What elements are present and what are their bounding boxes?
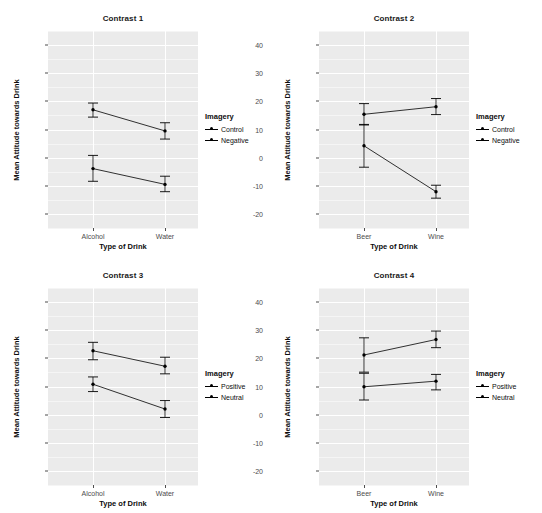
series-neutral xyxy=(88,377,170,418)
facet-title: Contrast 3 xyxy=(48,271,198,280)
data-point xyxy=(163,365,166,368)
data-point xyxy=(362,113,365,116)
legend-label: Positive xyxy=(492,383,517,390)
data-point xyxy=(434,190,437,193)
legend-item-positive[interactable]: Positive xyxy=(205,381,246,392)
plot-area xyxy=(319,288,469,485)
y-tick-mark xyxy=(45,330,48,331)
y-tick-mark xyxy=(45,185,48,186)
data-point xyxy=(91,108,94,111)
y-tick-label: 0 xyxy=(259,154,263,161)
y-tick-label: -20 xyxy=(253,467,263,474)
legend: ImageryPositiveNeutral xyxy=(205,369,246,403)
y-tick-label: 0 xyxy=(259,411,263,418)
series-line xyxy=(93,384,165,409)
data-point xyxy=(91,349,94,352)
x-tick-mark xyxy=(93,228,94,231)
data-point xyxy=(362,385,365,388)
legend-item-negative[interactable]: Negative xyxy=(205,135,249,146)
x-tick-mark xyxy=(436,485,437,488)
data-point xyxy=(362,353,365,356)
y-tick-mark xyxy=(316,442,319,443)
series-layer xyxy=(48,31,198,228)
x-tick-label: Wine xyxy=(428,490,444,497)
series-line xyxy=(93,169,165,185)
y-tick-mark xyxy=(316,157,319,158)
legend: ImageryPositiveNeutral xyxy=(476,369,517,403)
y-tick-mark xyxy=(316,129,319,130)
legend-item-neutral[interactable]: Neutral xyxy=(205,392,246,403)
y-tick-mark xyxy=(45,45,48,46)
legend-label: Negative xyxy=(221,137,249,144)
y-axis-title: Mean Attitude towards Drink xyxy=(283,336,292,437)
legend-title: Imagery xyxy=(476,369,517,378)
data-point xyxy=(91,383,94,386)
data-point xyxy=(434,379,437,382)
x-tick-label: Alcohol xyxy=(82,490,105,497)
x-tick-label: Wine xyxy=(428,233,444,240)
legend-key-icon xyxy=(205,381,218,392)
y-tick-mark xyxy=(45,358,48,359)
y-tick-mark xyxy=(316,73,319,74)
legend-title: Imagery xyxy=(476,112,520,121)
facet-panel-3: Contrast 3403020100-10-20AlcoholWaterTyp… xyxy=(0,257,271,513)
legend-item-control[interactable]: Control xyxy=(205,124,249,135)
y-tick-label: -10 xyxy=(253,439,263,446)
y-tick-mark xyxy=(316,185,319,186)
gridline-minor xyxy=(319,485,469,486)
y-tick-label: 40 xyxy=(255,299,263,306)
legend-item-negative[interactable]: Negative xyxy=(476,135,520,146)
legend-key-icon xyxy=(205,124,218,135)
legend-title: Imagery xyxy=(205,112,249,121)
x-tick-mark xyxy=(165,485,166,488)
legend: ImageryControlNegative xyxy=(476,112,520,146)
series-neutral xyxy=(359,373,441,400)
legend-item-positive[interactable]: Positive xyxy=(476,381,517,392)
facet-panel-2: Contrast 2403020100-10-20BeerWineType of… xyxy=(271,0,542,257)
series-positive xyxy=(88,342,170,374)
x-tick-mark xyxy=(364,485,365,488)
legend-key-dot xyxy=(481,395,484,398)
y-axis-title: Mean Attitude towards Drink xyxy=(12,336,21,437)
plot-area xyxy=(319,31,469,228)
legend-label: Neutral xyxy=(221,394,244,401)
gridline-minor xyxy=(319,228,469,229)
y-tick-label: 10 xyxy=(255,126,263,133)
y-tick-label: 20 xyxy=(255,355,263,362)
series-negative xyxy=(359,124,441,198)
y-tick-mark xyxy=(45,157,48,158)
y-tick-label: 10 xyxy=(255,383,263,390)
x-tick-mark xyxy=(165,228,166,231)
series-control xyxy=(88,103,170,139)
series-line xyxy=(364,146,436,192)
x-tick-label: Alcohol xyxy=(82,233,105,240)
legend-key-icon xyxy=(205,135,218,146)
y-tick-mark xyxy=(45,213,48,214)
series-layer xyxy=(319,288,469,485)
x-axis-title: Type of Drink xyxy=(319,499,469,508)
y-tick-mark xyxy=(316,213,319,214)
y-tick-mark xyxy=(45,442,48,443)
y-tick-mark xyxy=(316,101,319,102)
x-tick-label: Beer xyxy=(357,233,372,240)
y-tick-label: 40 xyxy=(255,42,263,49)
legend-key-dot xyxy=(481,384,484,387)
legend-label: Control xyxy=(492,126,515,133)
series-negative xyxy=(88,155,170,191)
legend-item-control[interactable]: Control xyxy=(476,124,520,135)
gridline-minor xyxy=(48,485,198,486)
legend-key-dot xyxy=(210,384,213,387)
data-point xyxy=(163,407,166,410)
x-axis-title: Type of Drink xyxy=(48,242,198,251)
data-point xyxy=(434,338,437,341)
legend: ImageryControlNegative xyxy=(205,112,249,146)
legend-item-neutral[interactable]: Neutral xyxy=(476,392,517,403)
x-axis-title: Type of Drink xyxy=(48,499,198,508)
series-line xyxy=(364,107,436,115)
y-tick-mark xyxy=(316,358,319,359)
series-control xyxy=(359,99,441,125)
series-line xyxy=(93,351,165,366)
legend-key-icon xyxy=(476,124,489,135)
y-tick-mark xyxy=(316,470,319,471)
facet-grid-figure: Contrast 1403020100-10-20AlcoholWaterTyp… xyxy=(0,0,542,513)
